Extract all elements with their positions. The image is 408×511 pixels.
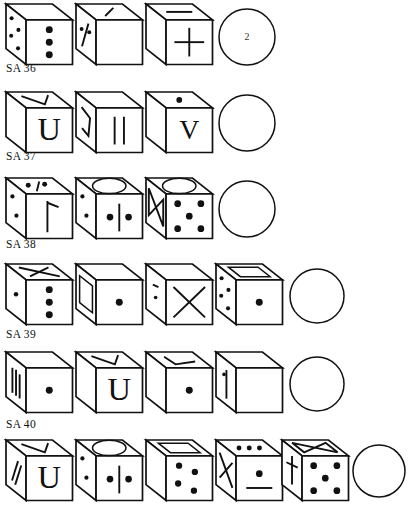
item-sa-40-answer-circle[interactable] bbox=[288, 356, 348, 414]
item-partial-bottom-cube-4 bbox=[216, 440, 286, 504]
svg-text:2: 2 bbox=[245, 31, 250, 42]
item-sa-36-cube-3 bbox=[146, 4, 216, 68]
item-sa-39-cube-2 bbox=[76, 264, 146, 328]
item-sa-38-cube-1 bbox=[6, 178, 76, 242]
item-sa-36-label: SA 36 bbox=[6, 62, 36, 74]
item-sa-37-cube-2 bbox=[76, 92, 146, 156]
item-sa-38-cube-3 bbox=[146, 178, 216, 242]
item-sa-37-label: SA 37 bbox=[6, 150, 36, 162]
item-sa-39-answer-circle[interactable] bbox=[288, 268, 348, 326]
item-sa-37-cube-1: U bbox=[6, 92, 76, 156]
svg-text:U: U bbox=[108, 371, 131, 407]
item-partial-bottom-cube-5 bbox=[282, 440, 352, 504]
item-sa-38-label: SA 38 bbox=[6, 238, 36, 250]
svg-text:U: U bbox=[38, 111, 61, 147]
item-sa-39-cube-1 bbox=[6, 264, 76, 328]
item-partial-bottom-answer-circle[interactable] bbox=[352, 444, 408, 500]
item-sa-39-cube-4 bbox=[216, 264, 286, 328]
item-sa-40-cube-2: U bbox=[76, 352, 146, 416]
item-sa-39-cube-3 bbox=[146, 264, 216, 328]
item-sa-36-cube-1 bbox=[6, 4, 76, 68]
item-sa-40-label: SA 40 bbox=[6, 418, 36, 430]
item-sa-37-answer-circle[interactable] bbox=[216, 94, 280, 154]
svg-text:V: V bbox=[179, 114, 199, 145]
item-sa-38-answer-circle[interactable] bbox=[216, 180, 280, 240]
item-sa-36-answer-circle[interactable]: 2 bbox=[216, 8, 280, 68]
item-sa-40-cube-1 bbox=[6, 352, 76, 416]
item-sa-38-cube-2 bbox=[76, 178, 146, 242]
item-partial-bottom-cube-3 bbox=[146, 440, 216, 504]
item-sa-40-cube-3 bbox=[146, 352, 216, 416]
item-sa-36-cube-2 bbox=[76, 4, 146, 68]
item-sa-40-cube-4 bbox=[216, 352, 286, 416]
item-partial-bottom-cube-2 bbox=[76, 440, 146, 504]
item-sa-37-cube-3: V bbox=[146, 92, 216, 156]
item-sa-39-label: SA 39 bbox=[6, 328, 36, 340]
item-partial-bottom-cube-1: U bbox=[6, 440, 76, 504]
svg-text:U: U bbox=[38, 459, 61, 495]
worksheet-page: 2SA 36UVSA 37SA 38SA 39USA 40U bbox=[0, 0, 408, 511]
